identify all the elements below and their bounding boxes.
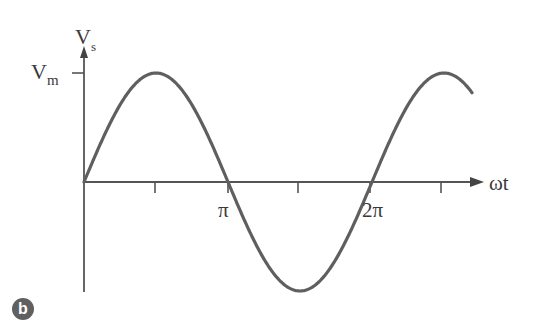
two-pi-tick-label: 2π [362, 200, 383, 221]
pi-tick-label: π [218, 200, 229, 221]
waveform-diagram [0, 0, 536, 330]
x-axis-label: ωt [489, 173, 509, 194]
y-axis-label: Vs [75, 26, 96, 48]
x-ticks [155, 182, 441, 193]
figure-badge: b [12, 298, 34, 320]
vm-label: Vm [31, 61, 59, 83]
x-axis-arrow-icon [470, 177, 484, 187]
